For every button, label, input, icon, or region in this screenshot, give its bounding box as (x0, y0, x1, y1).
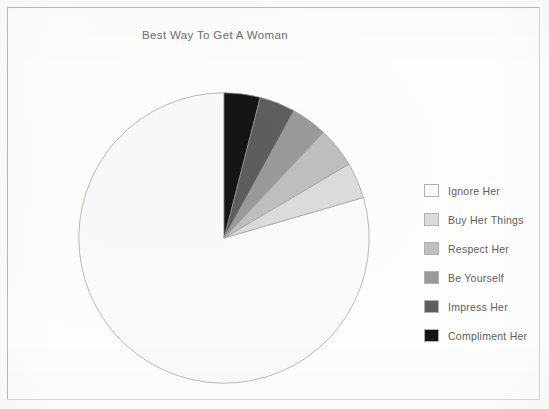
legend-item-label: Compliment Her (448, 330, 527, 342)
chart-legend: Ignore HerBuy Her ThingsRespect HerBe Yo… (424, 176, 544, 350)
pie-chart-plot-area (78, 92, 370, 384)
legend-item-label: Buy Her Things (448, 214, 524, 226)
page-title: Best Way To Get A Woman (0, 29, 430, 41)
pie-chart-screenshot: Best Way To Get A Woman Ignore HerBuy He… (0, 0, 549, 409)
legend-item: Respect Her (424, 234, 544, 263)
legend-item: Impress Her (424, 292, 544, 321)
legend-item-label: Impress Her (448, 301, 508, 313)
legend-item-label: Respect Her (448, 243, 509, 255)
legend-swatch (424, 213, 439, 226)
pie-slice-group (79, 93, 369, 383)
legend-item-label: Ignore Her (448, 185, 500, 197)
legend-swatch (424, 329, 439, 342)
legend-swatch (424, 300, 439, 313)
legend-swatch (424, 184, 439, 197)
legend-item: Compliment Her (424, 321, 544, 350)
legend-item: Ignore Her (424, 176, 544, 205)
legend-item-label: Be Yourself (448, 272, 504, 284)
legend-item: Buy Her Things (424, 205, 544, 234)
legend-swatch (424, 242, 439, 255)
legend-item: Be Yourself (424, 263, 544, 292)
pie-chart-svg (78, 92, 370, 384)
legend-swatch (424, 271, 439, 284)
